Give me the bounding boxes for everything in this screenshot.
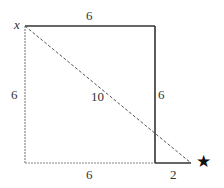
bottom-side-label: 6 bbox=[86, 167, 93, 182]
star-icon: ★ bbox=[196, 151, 211, 171]
extension-label: 2 bbox=[170, 167, 177, 182]
geometry-diagram: x 6 6 6 10 6 2 ★ bbox=[0, 0, 224, 188]
top-side-label: 6 bbox=[86, 8, 93, 23]
right-side-label: 6 bbox=[158, 87, 165, 102]
corner-label: x bbox=[13, 17, 20, 32]
left-side-label: 6 bbox=[11, 87, 18, 102]
diagonal-path bbox=[25, 26, 191, 163]
diagonal-label: 10 bbox=[91, 89, 104, 104]
